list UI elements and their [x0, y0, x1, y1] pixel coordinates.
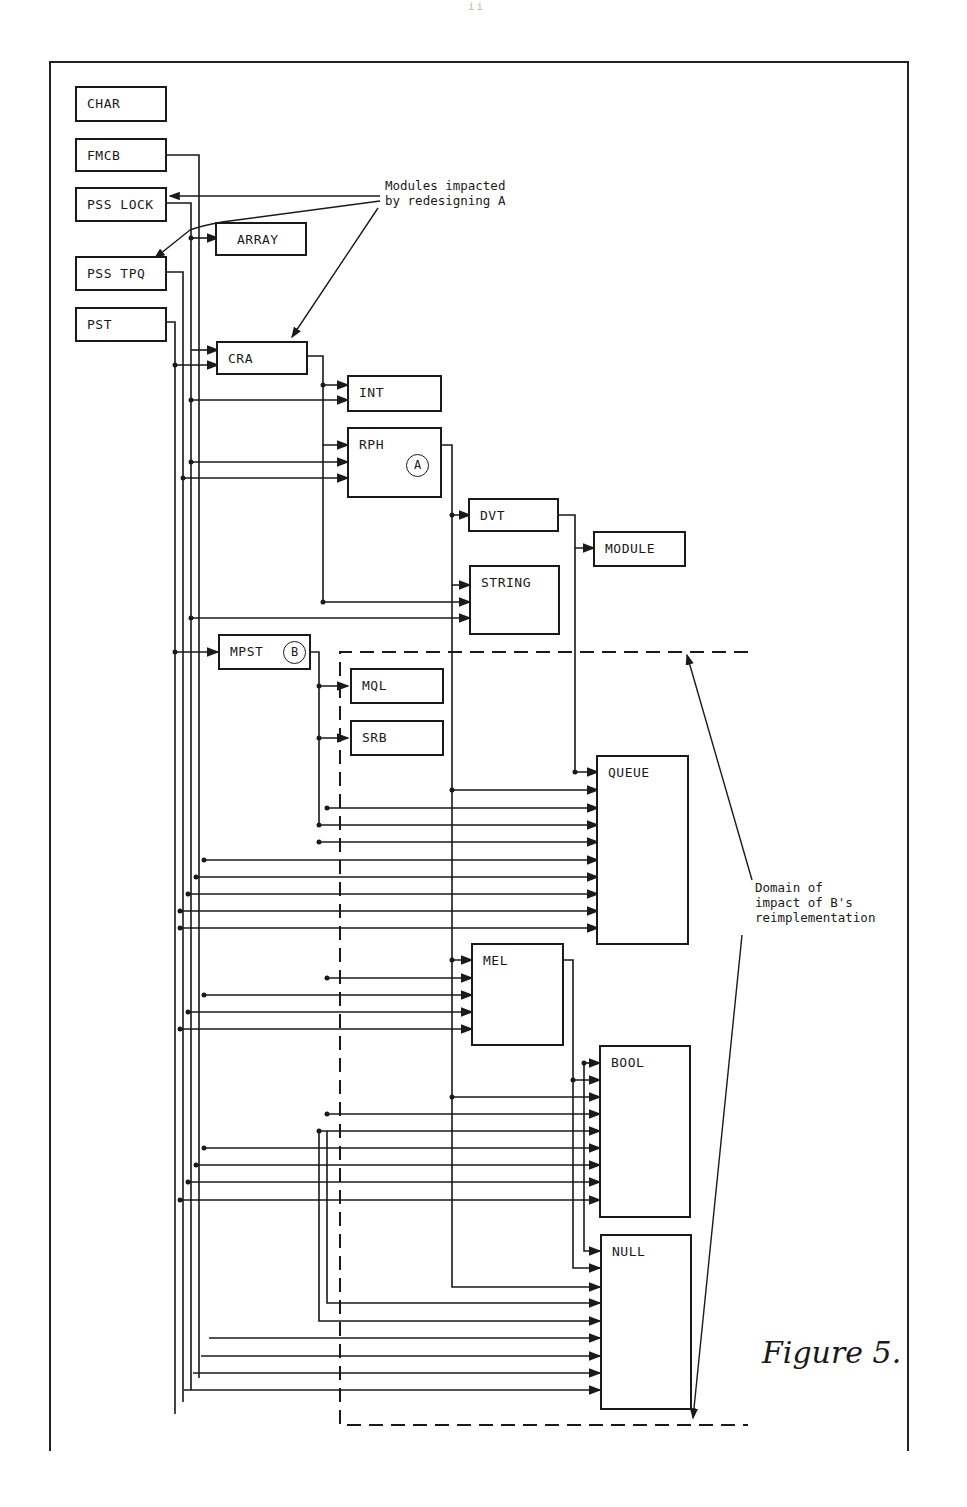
marker-b: B: [283, 641, 306, 664]
module-rph: RPH A: [347, 427, 442, 498]
annotation-domain-of-b: Domain of impact of B's reimplementation: [755, 880, 875, 925]
module-bool: BOOL: [599, 1045, 691, 1218]
module-string: STRING: [469, 565, 560, 635]
module-srb: SRB: [350, 720, 444, 756]
module-dvt: DVT: [468, 498, 559, 532]
module-mel: MEL: [471, 943, 564, 1046]
module-char: CHAR: [75, 86, 167, 122]
figure-5-diagram: ii: [0, 0, 967, 1507]
module-array: ARRAY: [215, 222, 307, 256]
module-pss-lock: PSS LOCK: [75, 187, 167, 222]
module-null: NULL: [600, 1234, 692, 1410]
module-mql: MQL: [350, 668, 444, 704]
module-cra: CRA: [216, 341, 308, 375]
module-pst: PST: [75, 307, 167, 342]
annotation-impacted-by-a: Modules impacted by redesigning A: [385, 178, 505, 208]
module-queue: QUEUE: [596, 755, 689, 945]
module-int: INT: [347, 375, 442, 412]
connection-lines: [0, 0, 967, 1507]
module-pss-tpq: PSS TPQ: [75, 256, 167, 291]
figure-caption: Figure 5.: [762, 1335, 901, 1370]
module-mpst: MPST B: [218, 634, 311, 670]
marker-a: A: [406, 454, 429, 477]
module-module: MODULE: [593, 531, 686, 567]
module-fmcb: FMCB: [75, 138, 167, 172]
